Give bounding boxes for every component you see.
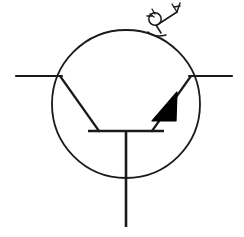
stick-figure-finger-3 (174, 6, 180, 7)
canvas-background (0, 0, 244, 237)
schematic-canvas: PNP bipolar junction transistor symbol w… (0, 0, 244, 237)
transistor-symbol-drawing (0, 0, 244, 237)
